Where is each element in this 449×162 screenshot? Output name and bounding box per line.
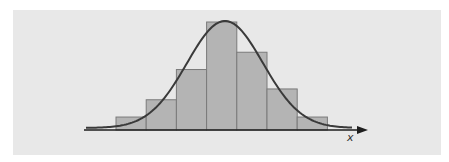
histogram-chart bbox=[0, 0, 449, 162]
x-axis-arrow-icon bbox=[357, 126, 368, 134]
histogram-bar bbox=[176, 70, 206, 130]
x-axis-label: x bbox=[347, 131, 354, 144]
histogram-bar bbox=[267, 89, 297, 130]
histogram-bar bbox=[146, 100, 176, 130]
histogram-bar bbox=[207, 22, 237, 130]
